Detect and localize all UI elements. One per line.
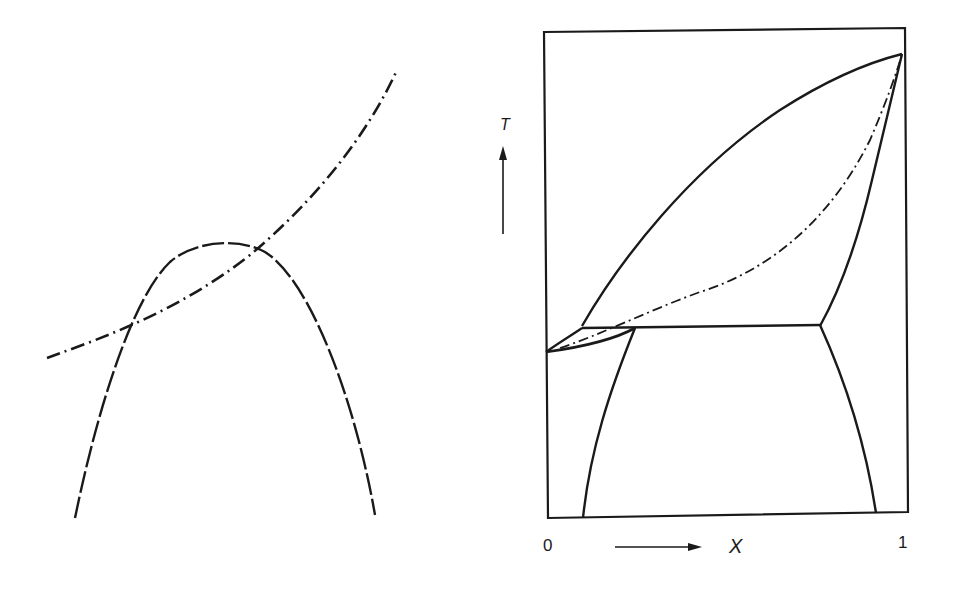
- figure-canvas: [0, 0, 959, 598]
- x-axis-label: X: [729, 535, 742, 558]
- left-panel: [47, 70, 397, 518]
- liquidus-upper-curve: [582, 54, 902, 326]
- left-lens-lower-curve: [546, 328, 635, 352]
- left-solvus-curve: [583, 328, 635, 518]
- right-solidus-curve: [820, 54, 902, 326]
- y-axis-label: T: [500, 116, 510, 134]
- dash-dot-curve: [47, 70, 397, 358]
- diagram-frame: [544, 28, 908, 518]
- right-panel: [503, 28, 908, 547]
- dashed-parabola-curve: [75, 243, 375, 518]
- x-axis-arrowhead-icon: [688, 543, 702, 551]
- right-solvus-curve: [820, 325, 876, 513]
- x-tick-max: 1: [898, 533, 907, 553]
- metastable-dash-dot-curve: [560, 54, 902, 348]
- x-tick-min: 0: [543, 536, 552, 556]
- t-axis-arrowhead-icon: [499, 146, 507, 160]
